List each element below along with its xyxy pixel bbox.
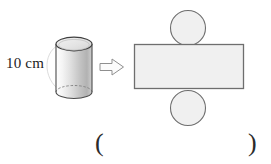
net-rectangle: [135, 45, 244, 89]
answer-open-paren: (: [95, 128, 104, 158]
answer-close-paren: ): [248, 128, 257, 158]
answer-blank[interactable]: ( ): [0, 128, 271, 164]
math-figure-cylinder-net: 10 cm ( ): [0, 0, 271, 164]
net-circle-top: [171, 11, 206, 46]
net-circle-bottom: [171, 91, 206, 126]
net-diagram: [128, 4, 253, 132]
cylinder-net: [128, 4, 253, 132]
cylinder-dimension-label: 10 cm: [6, 56, 44, 71]
transform-arrow-icon: [99, 58, 125, 76]
